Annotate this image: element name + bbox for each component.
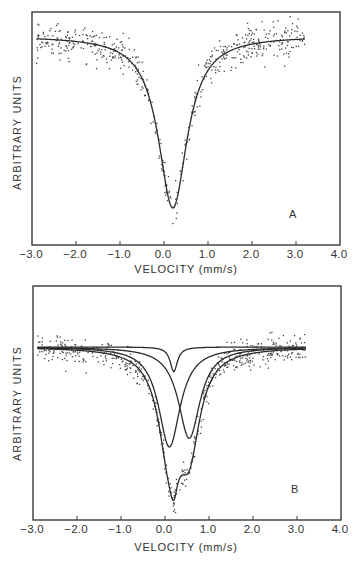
data-point (242, 37, 243, 38)
data-point (195, 92, 196, 93)
data-point (242, 357, 243, 358)
data-point (296, 37, 297, 38)
data-point (296, 344, 297, 345)
data-point (60, 341, 61, 342)
data-point (191, 125, 192, 126)
data-point (47, 35, 48, 36)
x-tick-label: 3.0 (288, 523, 305, 535)
plot-area-a (0, 0, 358, 281)
data-point (197, 106, 198, 107)
data-point (180, 171, 181, 172)
data-point (256, 29, 257, 30)
data-point (121, 59, 122, 60)
data-point (249, 33, 250, 34)
data-point (242, 342, 243, 343)
data-point (75, 34, 76, 35)
panel-tag-b: B (291, 483, 298, 495)
data-point (129, 49, 130, 50)
x-tick-label: 3.0 (287, 248, 304, 260)
data-point (83, 358, 84, 359)
data-point (240, 59, 241, 60)
data-point (230, 70, 231, 71)
data-point (150, 123, 151, 124)
data-point (120, 57, 121, 58)
data-point (247, 51, 248, 52)
data-point (207, 60, 208, 61)
data-point (300, 35, 301, 36)
data-point (277, 353, 278, 354)
data-point (99, 48, 100, 49)
data-point (270, 357, 271, 358)
x-tick-label: −3.0 (19, 248, 43, 260)
data-point (297, 354, 298, 355)
data-point (268, 360, 269, 361)
data-point (174, 503, 175, 504)
data-point (288, 354, 289, 355)
data-point (101, 57, 102, 58)
data-point (234, 360, 235, 361)
data-point (264, 30, 265, 31)
data-point (137, 73, 138, 74)
data-point (273, 27, 274, 28)
data-point (111, 345, 112, 346)
data-point (98, 50, 99, 51)
data-point (262, 55, 263, 56)
data-point (58, 345, 59, 346)
data-point (48, 353, 49, 354)
data-point (248, 54, 249, 55)
data-point (165, 195, 166, 196)
data-point (256, 52, 257, 53)
data-point (206, 385, 207, 386)
data-point (102, 361, 103, 362)
x-tick-label: 4.0 (332, 523, 349, 535)
data-point (62, 342, 63, 343)
data-point (46, 42, 47, 43)
data-point (130, 367, 131, 368)
data-point (210, 377, 211, 378)
data-point (109, 36, 110, 37)
data-point (174, 492, 175, 493)
data-point (215, 72, 216, 73)
data-point (287, 45, 288, 46)
data-point (303, 35, 304, 36)
data-point (302, 32, 303, 33)
data-point (298, 46, 299, 47)
data-point (272, 353, 273, 354)
data-point (235, 57, 236, 58)
x-tick-label: −2.0 (64, 523, 88, 535)
data-point (90, 46, 91, 47)
data-point (294, 31, 295, 32)
data-point (223, 49, 224, 50)
data-point (118, 357, 119, 358)
x-tick-label: 1.0 (200, 523, 217, 535)
data-point (247, 359, 248, 360)
data-point (183, 471, 184, 472)
data-point (179, 489, 180, 490)
data-point (69, 42, 70, 43)
data-point (282, 36, 283, 37)
data-point (202, 76, 203, 77)
data-point (244, 57, 245, 58)
data-point (224, 71, 225, 72)
data-point (193, 441, 194, 442)
data-point (122, 360, 123, 361)
data-point (239, 44, 240, 45)
data-point (82, 34, 83, 35)
data-point (249, 366, 250, 367)
data-point (208, 403, 209, 404)
data-point (292, 23, 293, 24)
y-axis-label-b: ARBITRARY UNITS (11, 346, 23, 461)
data-point (211, 368, 212, 369)
data-point (173, 505, 174, 506)
data-point (60, 344, 61, 345)
data-point (70, 354, 71, 355)
data-point (181, 483, 182, 484)
data-point (222, 361, 223, 362)
data-point (67, 47, 68, 48)
data-point (139, 367, 140, 368)
x-axis-label-b: VELOCITY (mm/s) (134, 541, 237, 553)
data-point (132, 365, 133, 366)
data-point (115, 55, 116, 56)
data-point (272, 344, 273, 345)
data-point (233, 57, 234, 58)
